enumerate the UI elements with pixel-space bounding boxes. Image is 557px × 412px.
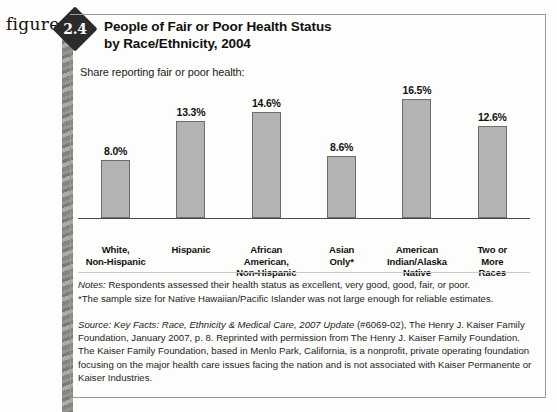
bar-value-label: 12.6% xyxy=(478,111,507,123)
x-axis-label-line: More xyxy=(481,256,503,267)
bar-column: 8.6% xyxy=(311,84,373,218)
x-axis-label: Hispanic xyxy=(155,244,227,279)
bar-rect xyxy=(252,112,281,218)
x-axis-label: American Indian/Alaska Native xyxy=(381,244,453,279)
x-axis-label-line: White, xyxy=(102,244,130,255)
figure-title: People of Fair or Poor Health Status by … xyxy=(104,18,524,52)
figure-title-line-2: by Race/Ethnicity, 2004 xyxy=(104,35,524,52)
notes-line: Notes: Respondents assessed their health… xyxy=(78,278,536,291)
source-title: Key Facts: Race, Ethnicity & Medical Car… xyxy=(111,319,354,330)
bar-value-label: 8.6% xyxy=(330,141,353,153)
bar-value-label: 8.0% xyxy=(104,145,127,157)
chart-baseline-axis xyxy=(78,218,530,219)
x-axis-label-line: Non-Hispanic xyxy=(86,256,146,267)
x-axis-labels: White, Non-Hispanic Hispanic African Ame… xyxy=(78,244,530,279)
x-axis-label-line: American xyxy=(396,244,439,255)
bar-column: 14.6% xyxy=(235,84,297,218)
bar-rect xyxy=(478,126,507,218)
notes-text: Respondents assessed their health status… xyxy=(106,279,470,290)
notes-label: Notes: xyxy=(78,279,106,290)
x-axis-label-line: African xyxy=(250,244,282,255)
x-axis-label-line: Two or xyxy=(477,244,507,255)
notes-footnote: *The sample size for Native Hawaiian/Pac… xyxy=(78,292,536,305)
x-axis-label-line: Hispanic xyxy=(172,244,211,255)
x-axis-label: Asian Only* xyxy=(306,244,378,279)
bar-column: 13.3% xyxy=(160,84,222,218)
bar-series: 8.0% 13.3% 14.6% 8.6% 16.5% 12.6% xyxy=(78,84,530,218)
source-line: Source: Key Facts: Race, Ethnicity & Med… xyxy=(78,318,536,384)
bar-value-label: 16.5% xyxy=(403,84,432,96)
x-axis-label: Two or More Races xyxy=(456,244,528,279)
bar-column: 8.0% xyxy=(85,84,147,218)
bar-rect xyxy=(101,160,130,218)
bar-column: 12.6% xyxy=(461,84,523,218)
x-axis-label-line: Indian/Alaska xyxy=(387,256,447,267)
notes-separator xyxy=(78,272,530,273)
bar-column: 16.5% xyxy=(386,84,448,218)
source-label: Source: xyxy=(78,319,111,330)
bar-value-label: 14.6% xyxy=(252,97,281,109)
bar-chart: Share reporting fair or poor health: 8.0… xyxy=(78,62,540,272)
x-axis-label: White, Non-Hispanic xyxy=(80,244,152,279)
source-block: Source: Key Facts: Race, Ethnicity & Med… xyxy=(78,318,536,384)
x-axis-label-line: Only* xyxy=(329,256,353,267)
figure-border-left-edge xyxy=(70,52,71,398)
figure-page: figure 2.4 People of Fair or Poor Health… xyxy=(0,0,557,412)
bar-rect xyxy=(402,99,431,218)
bar-value-label: 13.3% xyxy=(177,106,206,118)
chart-subtitle: Share reporting fair or poor health: xyxy=(80,66,245,78)
x-axis-label-line: American, xyxy=(244,256,289,267)
figure-title-line-1: People of Fair or Poor Health Status xyxy=(104,19,331,34)
notes-block: Notes: Respondents assessed their health… xyxy=(78,278,536,306)
x-axis-label: African American, Non-Hispanic xyxy=(230,244,302,279)
bar-rect xyxy=(327,156,356,218)
bar-rect xyxy=(176,121,205,218)
x-axis-label-line: Asian xyxy=(329,244,354,255)
